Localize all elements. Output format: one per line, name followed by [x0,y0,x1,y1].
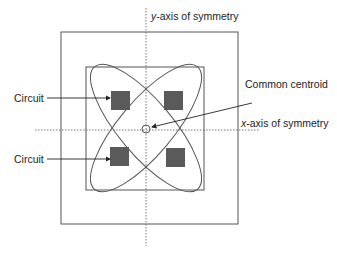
circuit-label-bottom: Circuit [14,153,44,165]
circuit-square-bottom-right [166,148,185,167]
circuit-square-bottom-left [110,147,129,166]
common-centroid-diagram: y-axis of symmetry x-axis of symmetry Co… [0,0,337,256]
circuit-square-top-right [164,91,183,110]
common-centroid-label: Common centroid [245,78,328,90]
circuit-label-top: Circuit [14,92,44,104]
x-axis-label: x-axis of symmetry [240,117,329,129]
inner-boundary [86,67,204,190]
circuit-square-top-left [111,91,130,110]
y-axis-label: y-axis of symmetry [150,10,239,22]
